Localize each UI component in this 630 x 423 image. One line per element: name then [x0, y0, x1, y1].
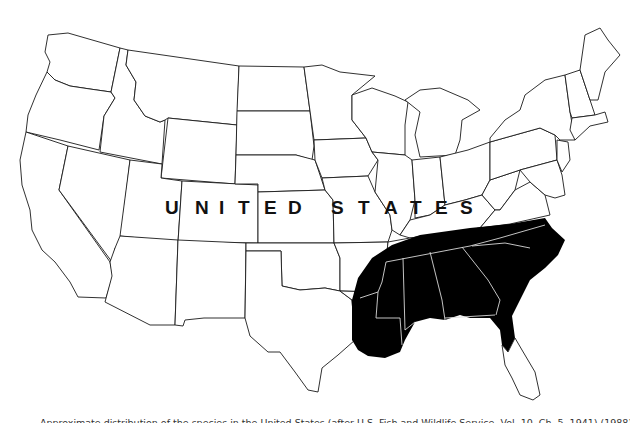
state-montana	[126, 50, 239, 125]
state-south-dakota	[236, 111, 314, 160]
label-letter: S	[460, 197, 473, 218]
state-new-mexico	[175, 240, 246, 326]
label-letter: A	[384, 197, 398, 218]
label-letter: T	[410, 197, 422, 218]
label-letter: T	[238, 197, 250, 218]
state-arizona	[105, 236, 178, 325]
state-maine	[580, 28, 620, 100]
label-letter: U	[165, 197, 179, 218]
state-wyoming	[161, 118, 237, 184]
figure-caption: Approximate distribution of the species …	[40, 413, 630, 423]
state-north-dakota	[237, 66, 310, 111]
label-letter: N	[195, 197, 209, 218]
label-letter: T	[358, 197, 370, 218]
state-outlines	[20, 28, 620, 392]
label-letter: E	[264, 197, 277, 218]
label-letter: E	[435, 197, 448, 218]
label-letter: S	[331, 197, 344, 218]
label-letter: I	[219, 197, 224, 218]
state-michigan	[405, 88, 480, 157]
label-letter: D	[288, 197, 302, 218]
